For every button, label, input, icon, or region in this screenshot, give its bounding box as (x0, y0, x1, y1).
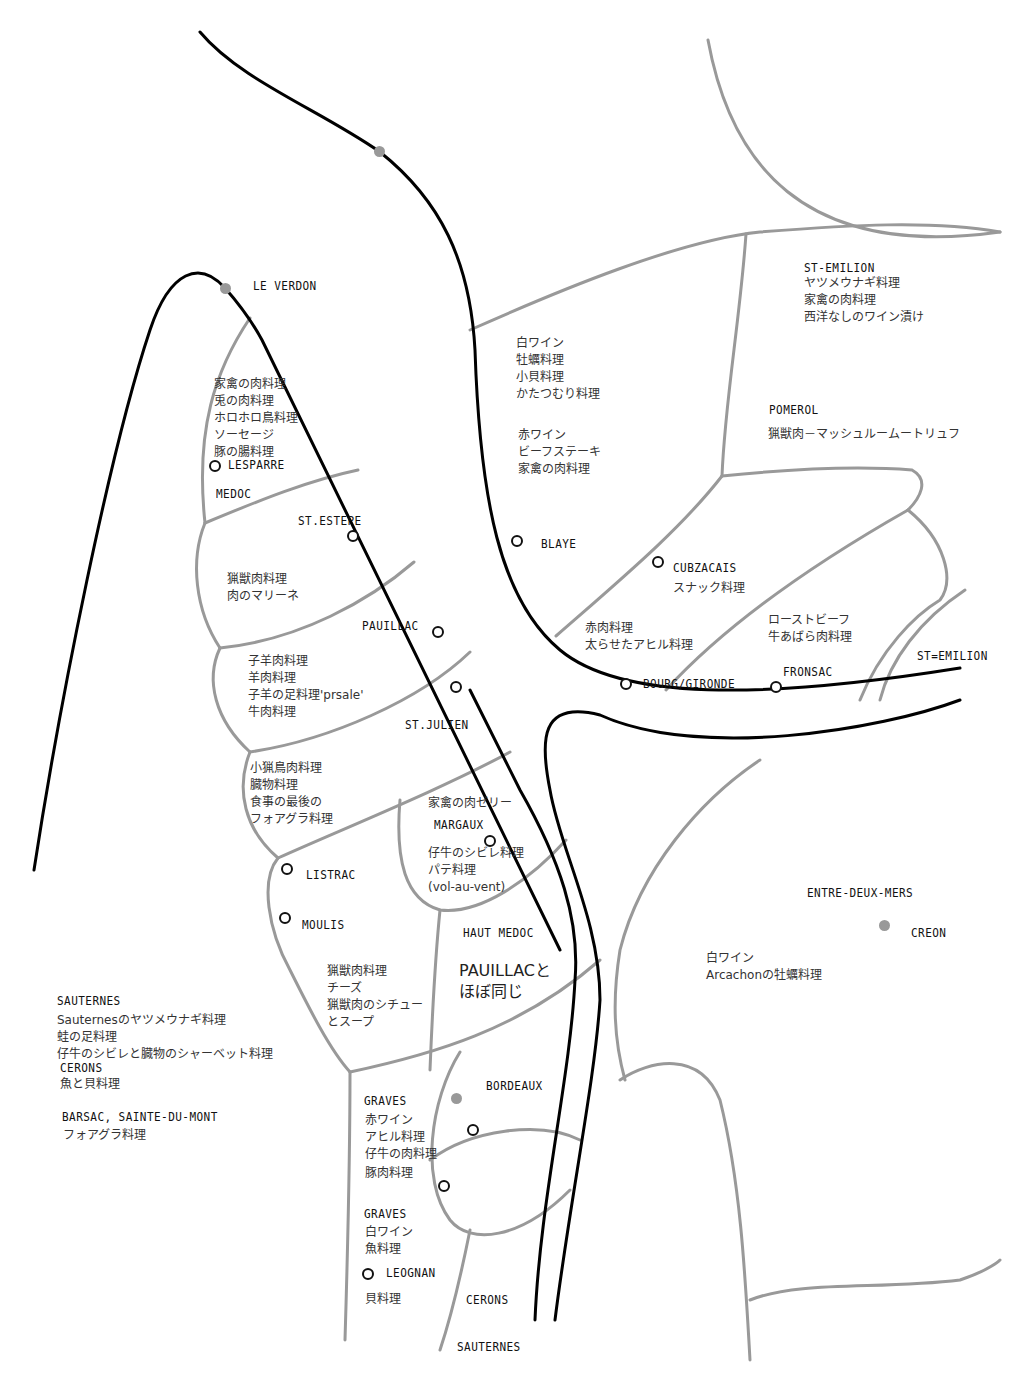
food-item: アヒル料理 (365, 1129, 437, 1146)
food-item: 貝料理 (365, 1291, 401, 1308)
food-item: 猟獣肉料理 (327, 963, 423, 980)
town-marker-cubzacais (652, 556, 664, 568)
label-sauternes-left: SAUTERNES (57, 994, 121, 1007)
town-marker-moulis (279, 912, 291, 924)
food-item: かたつむり料理 (516, 386, 600, 403)
food-item: (vol-au-vent) (428, 879, 524, 896)
label-st-estephe: ST.ESTEPE (298, 514, 362, 527)
label-st-emilion-top: ST-EMILION (804, 261, 875, 274)
food-list-listrac-moulis: 猟獣肉料理 チーズ 猟獣肉のシチュー とスープ (327, 963, 423, 1031)
food-list-barsac: フォアグラ料理 (63, 1127, 146, 1144)
label-medoc: MEDOC (216, 487, 251, 500)
town-marker-blaye (511, 535, 523, 547)
food-list-blaye-red: 赤ワイン ビーフステーキ 家禽の肉料理 (518, 427, 601, 478)
town-marker-lesparre (209, 460, 221, 472)
food-item: 兎の肉料理 (214, 393, 298, 410)
food-item: 家禽の肉ゼリー (428, 795, 512, 812)
food-item: 猟獣肉のシチュー (327, 997, 423, 1014)
food-item: ソーセージ (214, 427, 298, 444)
food-item: Arcachonの牡蠣料理 (706, 967, 822, 984)
food-list-margaux-top: 家禽の肉ゼリー (428, 795, 512, 812)
food-item: 子羊肉料理 (248, 653, 363, 670)
food-item: チーズ (327, 980, 423, 997)
label-st-julien: ST.JULIEN (405, 718, 469, 731)
food-item: ほぼ同じ (459, 981, 551, 1002)
town-marker-fronsac (770, 681, 782, 693)
label-graves-1: GRAVES (364, 1094, 406, 1107)
label-blaye: BLAYE (541, 537, 576, 550)
food-item: ホロホロ鳥料理 (214, 410, 298, 427)
food-item: 猟獣肉料理 (227, 571, 299, 588)
label-sauternes-bottom: SAUTERNES (457, 1340, 521, 1353)
label-graves-2: GRAVES (364, 1207, 406, 1220)
town-marker-graves-2 (438, 1180, 450, 1192)
town-marker-listrac (281, 863, 293, 875)
label-pauillac: PAUILLAC (362, 619, 419, 632)
city-dot-le-verdon (220, 283, 231, 294)
food-item: フォアグラ料理 (63, 1127, 146, 1144)
food-item: 家禽の肉料理 (804, 292, 924, 309)
food-list-st-emilion: ヤツメウナギ料理 家禽の肉料理 西洋なしのワイン漬け (804, 275, 924, 326)
food-item: フォアグラ料理 (250, 811, 333, 828)
city-dot-north (374, 146, 385, 157)
food-item: とスープ (327, 1014, 423, 1031)
town-marker-leognan (362, 1268, 374, 1280)
food-item: 猟獣肉－マッシュルームートリュフ (768, 426, 960, 443)
food-item: 子羊の足料理'prsale' (248, 687, 363, 704)
town-marker-bourg (620, 678, 632, 690)
food-item: ヤツメウナギ料理 (804, 275, 924, 292)
city-dot-creon (879, 920, 890, 931)
town-marker-st-julien (450, 681, 462, 693)
food-list-pauillac: 子羊肉料理 羊肉料理 子羊の足料理'prsale' 牛肉料理 (248, 653, 363, 721)
food-list-graves-white: 白ワイン 魚料理 (365, 1224, 413, 1258)
food-item: 赤ワイン (365, 1112, 437, 1129)
food-item: 仔牛の肉料理 (365, 1146, 437, 1163)
town-marker-st-estephe (347, 530, 359, 542)
food-list-leognan: 貝料理 (365, 1291, 401, 1308)
food-item: 牡蠣料理 (516, 352, 600, 369)
label-listrac: LISTRAC (306, 868, 356, 881)
food-item: 家禽の肉料理 (518, 461, 601, 478)
label-pomerol: POMEROL (769, 403, 819, 416)
food-list-st-estephe: 猟獣肉料理 肉のマリーネ (227, 571, 299, 605)
food-item: PAUILLACと (459, 960, 551, 981)
food-item: 豚肉料理 (365, 1165, 437, 1182)
city-dot-bordeaux (451, 1093, 462, 1104)
food-item: 仔牛のシビレ料理 (428, 845, 524, 862)
food-item: Sauternesのヤツメウナギ料理 (57, 1012, 273, 1029)
food-item: ビーフステーキ (518, 444, 601, 461)
food-item: 白ワイン (706, 950, 822, 967)
food-item: 食事の最後の (250, 794, 333, 811)
label-haut-medoc: HAUT MEDOC (463, 926, 534, 939)
food-list-fronsac: ローストビーフ 牛あばら肉料理 (768, 612, 852, 646)
food-item: 赤肉料理 (585, 620, 693, 637)
town-marker-pauillac (432, 626, 444, 638)
label-barsac: BARSAC, SAINTE-DU-MONT (62, 1110, 218, 1123)
food-item: 仔牛のシビレと臓物のシャーベット料理 (57, 1046, 273, 1063)
label-cerons-bottom: CERONS (466, 1293, 508, 1306)
food-item: 羊肉料理 (248, 670, 363, 687)
label-cubzacais: CUBZACAIS (673, 561, 737, 574)
food-item: スナック料理 (673, 580, 745, 597)
food-item: 赤ワイン (518, 427, 601, 444)
food-item: 太らせたアヒル料理 (585, 637, 693, 654)
food-item: 臓物料理 (250, 777, 333, 794)
food-item: 魚料理 (365, 1241, 413, 1258)
food-list-haut-medoc: PAUILLACと ほぼ同じ (459, 960, 551, 1002)
label-leognan: LEOGNAN (386, 1266, 436, 1279)
food-item: 小猟鳥肉料理 (250, 760, 333, 777)
food-list-st-julien: 小猟鳥肉料理 臓物料理 食事の最後の フォアグラ料理 (250, 760, 333, 828)
label-le-verdon: LE VERDON (253, 279, 317, 292)
map-canvas (0, 0, 1024, 1386)
food-list-bourg: 赤肉料理 太らせたアヒル料理 (585, 620, 693, 654)
label-creon: CREON (911, 926, 946, 939)
food-list-blaye-white: 白ワイン 牡蠣料理 小貝料理 かたつむり料理 (516, 335, 600, 403)
food-item: 牛あばら肉料理 (768, 629, 852, 646)
food-item: ローストビーフ (768, 612, 852, 629)
food-item: 小貝料理 (516, 369, 600, 386)
label-moulis: MOULIS (302, 918, 344, 931)
town-marker-graves-1 (467, 1124, 479, 1136)
food-list-cubzacais: スナック料理 (673, 580, 745, 597)
food-list-entre-deux-mers: 白ワイン Arcachonの牡蠣料理 (706, 950, 822, 984)
food-item: 白ワイン (516, 335, 600, 352)
